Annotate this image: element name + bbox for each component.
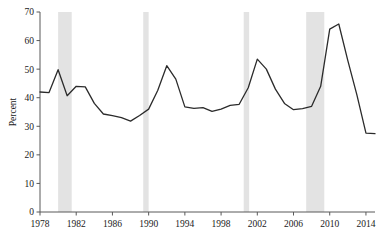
y-tick-label: 60 [25,36,35,46]
x-tick-label: 1994 [175,219,194,229]
x-axis-ticks: 1978198219861990199419982002200620102014 [31,212,376,229]
shaded-band-recession-1980 [58,12,72,212]
recession-shading-group [58,12,324,212]
x-tick-label: 1998 [212,219,231,229]
y-tick-label: 0 [29,207,34,217]
line-chart-plot: 010203040506070 197819821986199019941998… [0,0,379,238]
y-tick-label: 10 [25,179,35,189]
chart-figure: 010203040506070 197819821986199019941998… [0,0,379,238]
x-tick-label: 2002 [248,219,267,229]
shaded-band-recession-2001 [244,12,249,212]
x-tick-label: 1990 [139,219,158,229]
y-tick-label: 30 [25,122,35,132]
x-tick-label: 1982 [67,219,86,229]
y-tick-label: 40 [25,93,35,103]
x-tick-label: 1986 [103,219,122,229]
shaded-band-recession-2008 [306,12,324,212]
y-tick-label: 70 [25,7,35,17]
x-tick-label: 1978 [31,219,50,229]
y-tick-label: 50 [25,65,35,75]
y-tick-label: 20 [25,150,35,160]
x-tick-label: 2014 [356,219,375,229]
y-axis-ticks: 010203040506070 [25,7,41,217]
y-axis-title: Percent [8,97,18,126]
data-series-line [40,24,375,134]
x-tick-label: 2010 [320,219,339,229]
x-tick-label: 2006 [284,219,303,229]
y-axis: 010203040506070 [25,7,41,217]
x-axis: 1978198219861990199419982002200620102014 [31,212,376,229]
